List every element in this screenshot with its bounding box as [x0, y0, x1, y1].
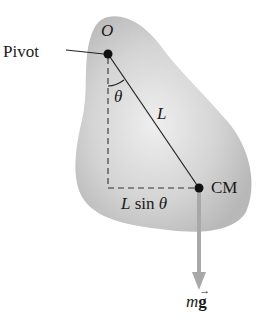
weight-force-label: m→g: [186, 293, 207, 310]
physical-pendulum-diagram: Pivot O θ L CM L sin θ m→g: [0, 0, 265, 329]
origin-label: O: [101, 22, 113, 39]
angle-label: θ: [114, 88, 122, 105]
gravity-vector-symbol: →g: [198, 292, 207, 311]
moment-arm-sin: sin: [135, 194, 155, 213]
moment-arm-theta: θ: [159, 194, 167, 213]
vector-arrow-icon: →: [199, 285, 210, 296]
length-label: L: [157, 105, 166, 122]
center-of-mass-label: CM: [211, 179, 237, 196]
pivot-dot: [104, 50, 113, 59]
moment-arm-label: L sin θ: [121, 195, 167, 212]
moment-arm-l: L: [121, 194, 130, 213]
pivot-label: Pivot: [3, 43, 39, 60]
diagram-graphics: [0, 0, 265, 329]
mass-symbol: m: [186, 292, 198, 311]
cm-dot: [195, 184, 204, 193]
